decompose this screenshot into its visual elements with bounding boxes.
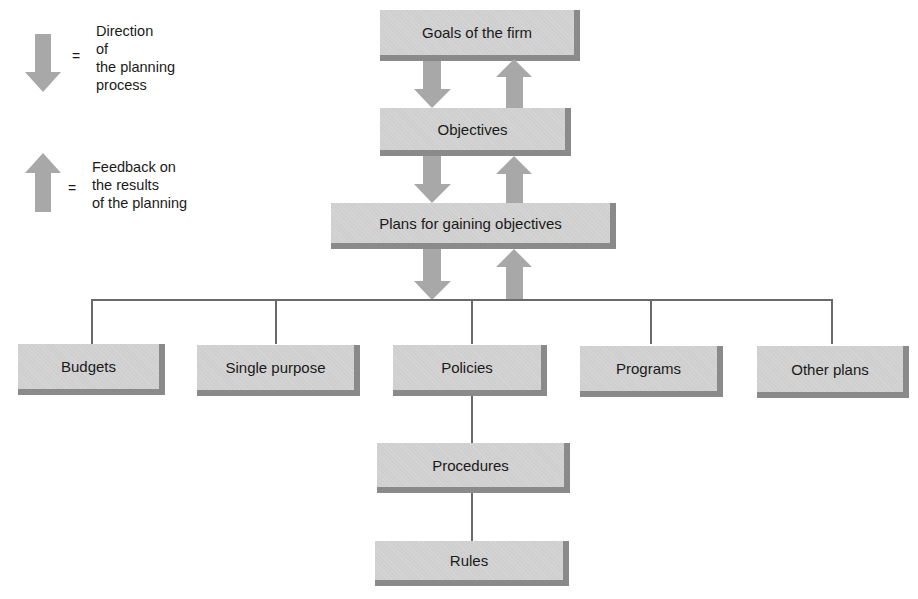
legend-feedback-text: Feedback on the results of the planning [92,158,187,212]
legend-line: of the planning [92,194,187,212]
node-plans-for-gaining-objectives: Plans for gaining objectives [331,203,616,249]
legend-line: Direction [96,22,175,40]
down-arrow-icon [414,156,452,204]
connector-policies-procedures [471,396,473,444]
node-label: Other plans [791,361,869,378]
node-single-purpose: Single purpose [197,345,360,396]
connector-single-purpose [275,299,277,344]
node-programs: Programs [580,346,723,397]
connector-programs [650,299,652,344]
up-arrow-icon [496,249,534,300]
node-label: Budgets [61,358,116,375]
up-arrow-icon [496,59,534,109]
connector-policies [471,299,473,344]
node-label: Goals of the firm [422,24,532,41]
legend-direction-text: Direction of the planning process [96,22,175,94]
legend-line: the results [92,176,187,194]
up-arrow-icon [496,156,534,204]
node-budgets: Budgets [18,344,165,395]
node-label: Rules [450,552,488,569]
down-arrow-icon [414,249,452,301]
node-rules: Rules [375,541,569,586]
node-label: Programs [616,360,681,377]
connector-bus [91,299,833,301]
legend-line: the planning [96,58,175,76]
down-arrow-icon [414,61,452,109]
node-procedures: Procedures [377,443,570,493]
node-policies: Policies [393,345,547,396]
node-label: Plans for gaining objectives [379,215,562,232]
legend-equals-2: = [68,180,76,196]
node-label: Single purpose [225,359,325,376]
connector-other-plans [831,299,833,344]
connector-budgets [91,299,93,344]
legend-line: Feedback on [92,158,187,176]
legend-line: process [96,76,175,94]
node-other-plans: Other plans [757,346,909,398]
legend-down-arrow-icon [24,34,62,94]
node-label: Procedures [432,457,509,474]
node-objectives: Objectives [380,108,571,156]
node-goals-of-the-firm: Goals of the firm [380,10,580,61]
legend-line: of [96,40,175,58]
node-label: Policies [441,359,493,376]
legend-equals-1: = [72,48,80,64]
legend-up-arrow-icon [24,153,62,213]
node-label: Objectives [437,121,507,138]
connector-procedures-rules [471,493,473,541]
